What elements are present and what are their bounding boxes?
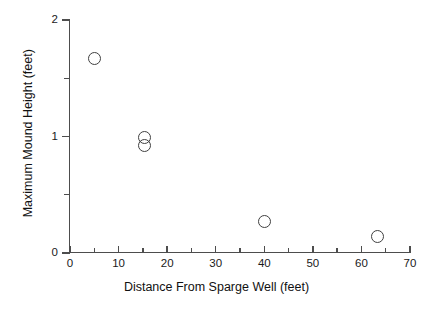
x-tick-minor	[385, 248, 386, 253]
x-tick-major	[166, 246, 167, 253]
x-tick-minor	[191, 248, 192, 253]
x-tick-label: 50	[298, 258, 328, 270]
scatter-plot-figure: 012 010203040506070 Distance From Sparge…	[0, 0, 433, 316]
x-tick-minor	[94, 248, 95, 253]
x-tick-minor	[142, 248, 143, 253]
y-axis-title: Maximum Mound Height (feet)	[22, 13, 35, 253]
x-tick-major	[264, 246, 265, 253]
x-tick-label: 20	[152, 258, 182, 270]
x-tick-minor	[288, 248, 289, 253]
data-point-marker	[371, 230, 384, 243]
x-tick-label: 10	[104, 258, 134, 270]
x-tick-label: 70	[395, 258, 425, 270]
x-tick-minor	[239, 248, 240, 253]
x-tick-label: 0	[55, 258, 85, 270]
y-tick-minor	[64, 194, 69, 195]
x-tick-major	[312, 246, 313, 253]
x-tick-label: 60	[346, 258, 376, 270]
x-tick-minor	[336, 248, 337, 253]
y-tick-label: 0	[36, 247, 58, 259]
data-point-marker	[88, 52, 101, 65]
x-tick-major	[409, 246, 410, 253]
y-tick-minor	[64, 78, 69, 79]
y-tick-label: 2	[36, 14, 58, 26]
scan-artifact-band	[0, 300, 433, 316]
data-point-marker	[258, 215, 271, 228]
x-tick-major	[215, 246, 216, 253]
y-tick-major	[62, 136, 69, 137]
x-tick-label: 40	[249, 258, 279, 270]
y-tick-major	[62, 19, 69, 20]
y-axis-line	[69, 19, 70, 254]
y-tick-major	[62, 252, 69, 253]
x-tick-label: 30	[201, 258, 231, 270]
x-axis-title: Distance From Sparge Well (feet)	[0, 281, 433, 294]
data-point-marker	[138, 139, 151, 152]
x-tick-major	[69, 246, 70, 253]
x-tick-major	[118, 246, 119, 253]
y-tick-label: 1	[36, 131, 58, 143]
x-tick-major	[361, 246, 362, 253]
